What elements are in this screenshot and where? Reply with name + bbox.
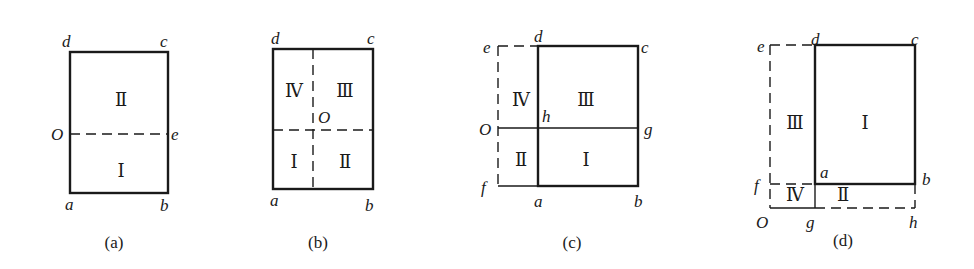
region-label-i: Ⅰ	[582, 150, 589, 170]
point-label-a: a	[270, 191, 279, 210]
point-label-h: h	[909, 213, 918, 232]
region-label-ii: Ⅱ	[837, 185, 849, 205]
region-label-ii: Ⅱ	[115, 90, 127, 110]
figure-canvas: d c O e a b Ⅱ Ⅰ (a) d c O a b Ⅳ Ⅲ Ⅰ Ⅱ (b…	[0, 0, 974, 269]
caption-a: (a)	[105, 233, 124, 252]
point-label-o: O	[318, 108, 330, 127]
region-label-iv: Ⅳ	[285, 81, 304, 101]
region-label-i: Ⅰ	[290, 152, 297, 172]
point-label-b: b	[365, 196, 374, 215]
point-label-d: d	[534, 27, 543, 46]
point-label-e: e	[757, 37, 765, 56]
region-label-ii: Ⅱ	[515, 150, 527, 170]
point-label-d: d	[811, 30, 820, 49]
figure-d: e d c f a b O g h Ⅲ Ⅰ Ⅳ Ⅱ (d)	[754, 30, 931, 250]
point-label-e: e	[171, 125, 179, 144]
caption-b: (b)	[308, 233, 328, 252]
region-label-iii: Ⅲ	[786, 113, 803, 133]
point-label-o: O	[51, 125, 63, 144]
region-label-i: Ⅰ	[117, 161, 124, 181]
point-label-c: c	[641, 38, 649, 57]
point-label-a: a	[820, 163, 829, 182]
region-label-iv: Ⅳ	[512, 90, 531, 110]
point-label-b: b	[634, 192, 643, 211]
point-label-f: f	[481, 178, 488, 197]
region-label-ii: Ⅱ	[339, 152, 351, 172]
point-label-h: h	[542, 107, 551, 126]
point-label-c: c	[160, 32, 168, 51]
region-label-iii: Ⅲ	[577, 90, 594, 110]
point-label-o: O	[756, 213, 768, 232]
point-label-c: c	[911, 30, 919, 49]
point-label-f: f	[754, 176, 761, 195]
point-label-d: d	[271, 29, 280, 48]
point-label-b: b	[160, 196, 169, 215]
figure-b: d c O a b Ⅳ Ⅲ Ⅰ Ⅱ (b)	[270, 29, 375, 252]
point-label-a: a	[534, 192, 543, 211]
point-label-e: e	[483, 38, 491, 57]
point-label-o: O	[479, 120, 491, 139]
region-label-i: Ⅰ	[861, 113, 868, 133]
caption-d: (d)	[833, 231, 853, 250]
point-label-a: a	[65, 195, 74, 214]
region-label-iii: Ⅲ	[336, 81, 353, 101]
point-label-g: g	[644, 120, 653, 139]
caption-c: (c)	[563, 233, 582, 252]
point-label-b: b	[922, 170, 931, 189]
figure-a: d c O e a b Ⅱ Ⅰ (a)	[51, 32, 179, 252]
point-label-g: g	[806, 213, 815, 232]
point-label-d: d	[62, 32, 71, 51]
point-label-c: c	[367, 29, 375, 48]
figure-c: e d c O h g f a b Ⅳ Ⅲ Ⅱ Ⅰ (c)	[479, 27, 653, 252]
region-label-iv: Ⅳ	[786, 185, 805, 205]
